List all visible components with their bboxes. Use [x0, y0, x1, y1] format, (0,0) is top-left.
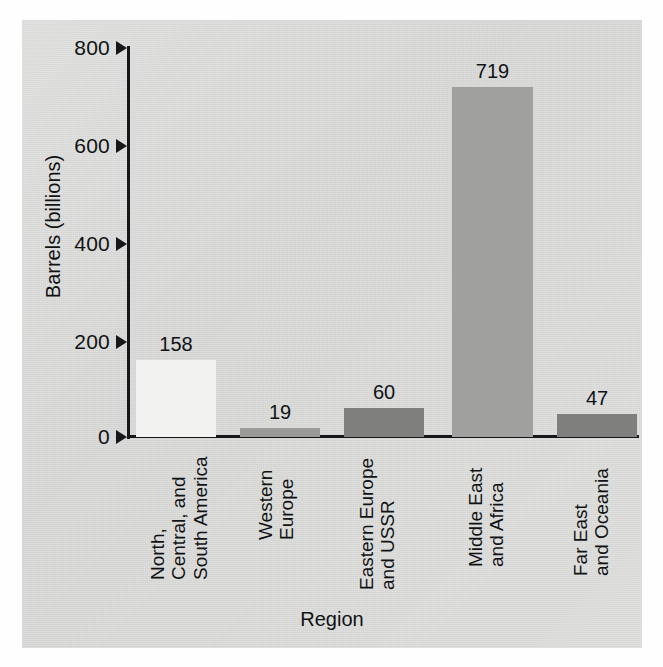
- y-axis-line: [127, 46, 130, 439]
- y-axis-title: Barrels (billions): [42, 132, 65, 322]
- bar-value-2: 19: [269, 401, 291, 424]
- bar-value-4: 719: [476, 60, 509, 83]
- x-category-label-eastern-europe-ussr: Eastern Europe and USSR: [356, 458, 399, 590]
- cat5-line1: Far East: [570, 468, 591, 576]
- x-category-label-far-east-oceania: Far East and Oceania: [570, 468, 613, 576]
- y-tick-label-800: 800: [32, 36, 110, 60]
- chart-page: 800 600 400 200 0 Barrels (billions) 158…: [0, 0, 663, 667]
- cat2-line2: Europe: [276, 470, 297, 540]
- y-tick-label-0: 0: [32, 425, 110, 449]
- bar-western-europe: 19: [240, 428, 320, 437]
- x-category-label-north-central-south-america: North, Central, and South America: [147, 456, 211, 580]
- cat3-line2: and USSR: [377, 458, 398, 590]
- y-tick-marker-600: [116, 139, 127, 153]
- y-tick-marker-200: [116, 335, 127, 349]
- cat4-line1: Middle East: [465, 468, 486, 567]
- y-tick-marker-800: [116, 41, 127, 55]
- cat1-line2: Central, and: [168, 456, 189, 580]
- bar-value-3: 60: [373, 381, 395, 404]
- x-category-label-western-europe: Western Europe: [255, 470, 298, 540]
- x-category-label-middle-east-africa: Middle East and Africa: [465, 468, 508, 567]
- cat4-line2: and Africa: [486, 468, 507, 567]
- cat1-line1: North,: [147, 456, 168, 580]
- bar-eastern-europe-ussr: 60: [344, 408, 424, 437]
- cat1-line3: South America: [190, 456, 211, 580]
- cat3-line1: Eastern Europe: [356, 458, 377, 590]
- bar-north-central-south-america: 158: [136, 360, 216, 437]
- y-tick-label-200: 200: [32, 330, 110, 354]
- chart-panel: 800 600 400 200 0 Barrels (billions) 158…: [22, 20, 642, 648]
- bar-middle-east-africa: 719: [452, 87, 533, 437]
- x-axis-title: Region: [232, 608, 432, 631]
- bar-value-1: 158: [159, 333, 192, 356]
- bar-far-east-oceania: 47: [557, 414, 637, 437]
- cat5-line2: and Oceania: [591, 468, 612, 576]
- plot-area: 800 600 400 200 0 Barrels (billions) 158…: [22, 20, 642, 648]
- y-tick-marker-400: [116, 237, 127, 251]
- y-tick-marker-0: [116, 430, 127, 444]
- cat2-line1: Western: [255, 470, 276, 540]
- bar-value-5: 47: [586, 387, 608, 410]
